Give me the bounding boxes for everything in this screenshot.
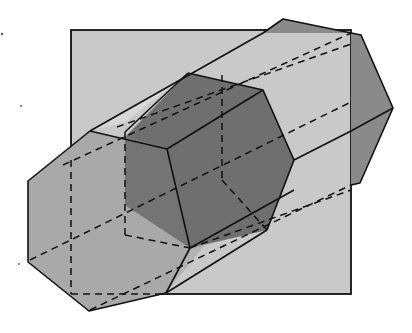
- prism-square-diagram: [0, 0, 412, 333]
- speck: [1, 33, 3, 35]
- speck: [20, 105, 22, 107]
- speck: [18, 263, 20, 265]
- back-hexagon-face: [351, 33, 393, 186]
